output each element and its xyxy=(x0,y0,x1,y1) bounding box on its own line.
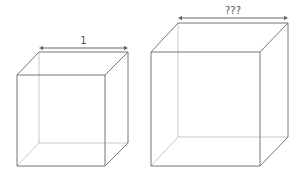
arrowhead-left-icon xyxy=(39,46,43,50)
cube-edge xyxy=(260,137,288,166)
cube-edge xyxy=(151,23,178,52)
cube-edge xyxy=(105,143,128,166)
large-cube-dimension-label: ??? xyxy=(225,5,241,16)
cube-edge xyxy=(260,23,288,52)
cube-edge xyxy=(17,52,39,75)
cube-comparison-diagram xyxy=(0,0,304,181)
arrowhead-right-icon xyxy=(124,46,128,50)
arrowhead-left-icon xyxy=(178,16,182,20)
hidden-edge xyxy=(17,143,39,166)
arrowhead-right-icon xyxy=(284,16,288,20)
hidden-edge xyxy=(151,137,178,166)
small-cube-dimension-label: 1 xyxy=(80,35,86,46)
cube-edge xyxy=(105,52,128,75)
